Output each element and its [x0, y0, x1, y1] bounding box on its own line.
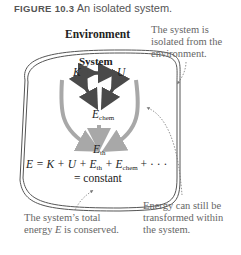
node-E-th: Eth: [93, 143, 105, 157]
note-conserved: The system’s total energy E is conserved…: [24, 212, 119, 236]
note-transformed: Energy can still be transformed within t…: [143, 200, 223, 236]
node-E-chem: Echem: [92, 108, 114, 122]
energy-equation: E = K + U + Eth + Echem + · · ·: [26, 158, 167, 172]
note-isolated: The system is isolated from the environm…: [151, 24, 222, 60]
node-K: K: [73, 66, 81, 78]
environment-label: Environment: [65, 28, 130, 40]
equation-constant: = constant: [74, 172, 122, 184]
system-label: System: [79, 55, 113, 67]
node-U: U: [117, 66, 125, 78]
